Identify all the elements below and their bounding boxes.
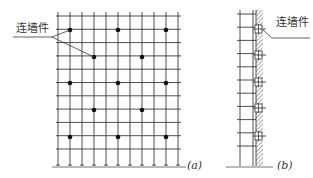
- wall-tie-point: [116, 28, 121, 33]
- tie-label-b: 连墙件: [276, 17, 309, 29]
- caption-b: (b): [277, 160, 293, 172]
- leader-line: [52, 30, 70, 37]
- wall-tie-point: [116, 81, 121, 86]
- leader-line: [263, 30, 272, 38]
- wall-tie-point: [92, 108, 97, 113]
- wall-tie-point: [116, 135, 121, 140]
- wall-tie-point: [164, 81, 169, 86]
- wall-tie-point: [68, 81, 73, 86]
- wall-tie-point: [164, 135, 169, 140]
- tie-label-a: 连墙件: [16, 23, 49, 35]
- wall-tie-point: [68, 135, 73, 140]
- wall-tie-point: [140, 108, 145, 113]
- section-view-b: [226, 10, 310, 167]
- elevation-view-a: [13, 12, 186, 167]
- wall-hatch: [256, 10, 263, 166]
- caption-a: (a): [187, 160, 202, 172]
- wall-tie-point: [164, 28, 169, 33]
- wall-tie-point: [140, 55, 145, 60]
